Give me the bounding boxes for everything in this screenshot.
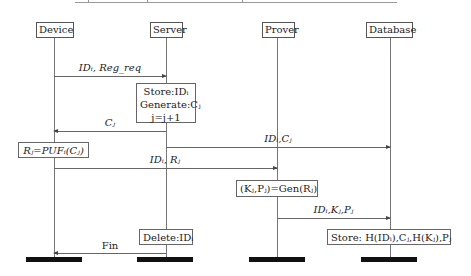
arrow-device-to-server: [54, 76, 166, 77]
top-table-tick: [242, 0, 243, 3]
arrow-server-to-database: [166, 147, 390, 148]
database-terminal-bar: [361, 257, 417, 262]
note-line: Generate:Cⱼ: [140, 98, 192, 111]
arrow-device-to-prover: [54, 168, 277, 169]
top-table-tick: [147, 0, 148, 3]
server-terminal-bar: [137, 257, 193, 262]
prover-terminal-bar: [249, 257, 305, 262]
arrow-prover-to-database: [277, 218, 390, 219]
message-label-fin: Fin: [54, 240, 166, 251]
actor-prover: Prover: [262, 22, 295, 38]
device-terminal-bar: [26, 257, 82, 262]
message-label-idi-regreq: IDᵢ, Reg_req: [54, 62, 166, 73]
message-label-idi-rj: IDᵢ, Rⱼ: [130, 154, 200, 165]
note-prover-gen: (Kⱼ,Pⱼ)=Gen(Rⱼ): [236, 180, 318, 197]
arrow-server-to-device: [54, 131, 166, 132]
message-label-idi-cj: IDᵢ,Cⱼ: [166, 133, 390, 144]
top-table-rule: [75, 2, 397, 3]
note-device-puf: Rⱼ=PUFᵢ(Cⱼ): [18, 142, 89, 158]
actor-database: Database: [366, 22, 413, 38]
actor-device: Device: [36, 22, 74, 38]
message-label-cj: Cⱼ: [54, 117, 166, 128]
message-label-idi-kj-pj: IDᵢ,Kⱼ,Pⱼ: [277, 204, 390, 215]
arrow-fin-server-to-device: [54, 253, 166, 254]
top-table-tick: [88, 0, 89, 3]
note-line: Store:IDᵢ: [140, 85, 192, 98]
actor-server: Server: [150, 22, 183, 38]
note-database-store: Store: H(IDᵢ),Cⱼ,H(Kⱼ),Pⱼ: [327, 229, 451, 245]
